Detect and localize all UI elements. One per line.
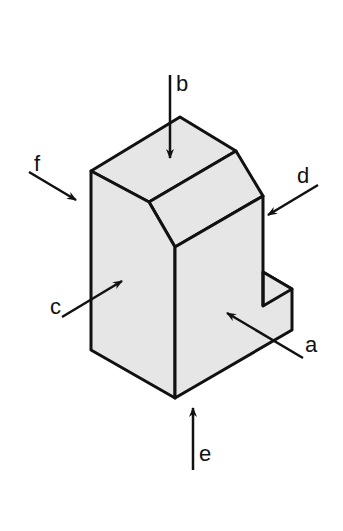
label-c: c [50, 294, 61, 319]
label-b: b [176, 71, 188, 96]
label-e: e [199, 441, 211, 466]
arrow-d [268, 185, 318, 215]
arrow-f [29, 172, 76, 200]
label-d: d [297, 163, 309, 188]
label-f: f [34, 151, 41, 176]
isometric-block-diagram: b f d c a e [0, 0, 343, 531]
block-solid [91, 117, 292, 398]
label-a: a [305, 332, 318, 357]
